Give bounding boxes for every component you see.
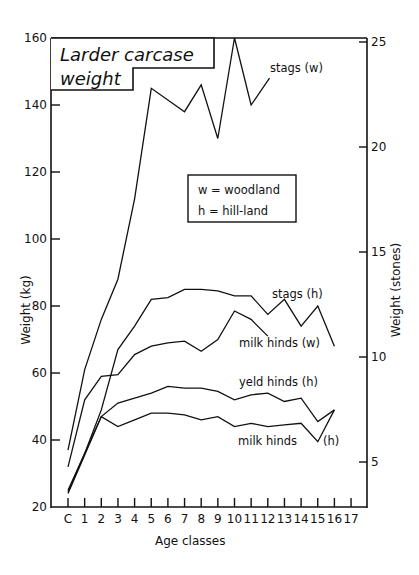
x-ticks: C1234567891011121314151617 <box>64 498 359 526</box>
series-line-stags-h <box>68 289 334 490</box>
chart-title-line1: Larder carcase <box>60 44 194 65</box>
x-tick-label: 2 <box>97 512 105 526</box>
x-tick-label: 16 <box>327 512 342 526</box>
x-tick-label: 13 <box>277 512 292 526</box>
y-tick-label: 40 <box>32 433 47 447</box>
y-tick-label: 140 <box>24 98 47 112</box>
x-tick-label: 11 <box>244 512 259 526</box>
left-y-ticks: 20406080100120140160 <box>24 31 60 514</box>
x-axis-title: Age classes <box>155 534 225 548</box>
x-tick-label: 15 <box>310 512 325 526</box>
right-y-ticks: 510152025 <box>359 35 386 469</box>
series-label-milk-hinds-w: milk hinds (w) <box>239 336 320 350</box>
series-label-stags-h: stags (h) <box>272 287 323 301</box>
series-line-milk-hinds-h <box>68 410 334 494</box>
series-label-milk-hinds-h: milk hinds <box>238 434 297 448</box>
x-tick-label: 3 <box>114 512 122 526</box>
y-tick-label: 60 <box>32 366 47 380</box>
carcase-weight-chart: 20406080100120140160 510152025 C12345678… <box>0 0 419 575</box>
y-tick-label: 120 <box>24 165 47 179</box>
legend-woodland: w = woodland <box>198 183 280 197</box>
legend: w = woodland h = hill-land <box>188 175 296 222</box>
chart-title-box: Larder carcase weight <box>51 38 214 90</box>
x-tick-label: C <box>64 512 72 526</box>
x-tick-label: 12 <box>260 512 275 526</box>
y-tick-label: 80 <box>32 299 47 313</box>
x-tick-label: 10 <box>227 512 242 526</box>
series-label-milk-hinds-h-suffix: (h) <box>323 434 339 448</box>
chart-title-line2: weight <box>60 68 122 89</box>
x-tick-label: 9 <box>214 512 222 526</box>
x-tick-label: 1 <box>81 512 89 526</box>
left-y-axis-title: Weight (kg) <box>19 275 33 345</box>
legend-hill-land: h = hill-land <box>198 204 268 218</box>
right-y-axis-title: Weight (stones) <box>389 243 403 338</box>
x-tick-label: 17 <box>343 512 358 526</box>
y-right-tick-label: 25 <box>371 35 386 49</box>
series-label-stags-w: stags (w) <box>270 61 323 75</box>
y-right-tick-label: 10 <box>371 350 386 364</box>
y-right-tick-label: 5 <box>371 455 379 469</box>
x-tick-label: 8 <box>197 512 205 526</box>
y-right-tick-label: 15 <box>371 245 386 259</box>
y-tick-label: 100 <box>24 232 47 246</box>
x-tick-label: 14 <box>293 512 308 526</box>
series-label-yeld-hinds-h: yeld hinds (h) <box>239 375 318 389</box>
y-tick-label: 160 <box>24 31 47 45</box>
x-tick-label: 4 <box>131 512 139 526</box>
x-tick-label: 6 <box>164 512 172 526</box>
y-tick-label: 20 <box>32 500 47 514</box>
series-lines <box>68 38 334 494</box>
y-right-tick-label: 20 <box>371 140 386 154</box>
x-tick-label: 7 <box>181 512 189 526</box>
x-tick-label: 5 <box>147 512 155 526</box>
